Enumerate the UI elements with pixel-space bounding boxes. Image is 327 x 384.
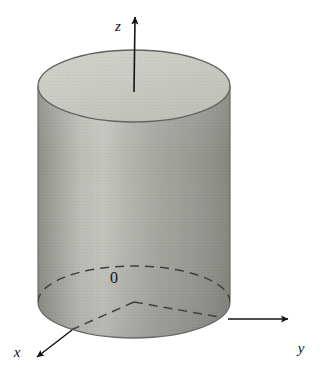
cylinder-body-texture bbox=[38, 86, 230, 338]
z-axis-label: z bbox=[114, 18, 121, 34]
cylinder-3d-figure: z y x 0 bbox=[0, 0, 327, 384]
x-axis-label: x bbox=[13, 344, 21, 360]
z-axis-visible-segment bbox=[134, 17, 135, 92]
y-axis-label: y bbox=[296, 340, 305, 356]
cylinder-solid bbox=[38, 50, 230, 338]
figure-root: z y x 0 bbox=[0, 0, 327, 384]
origin-label: 0 bbox=[110, 269, 118, 286]
